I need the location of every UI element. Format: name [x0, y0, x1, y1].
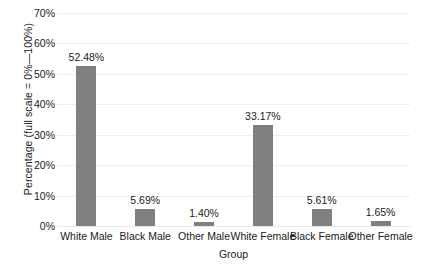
bar[interactable] [312, 209, 332, 226]
bar-value-label: 5.69% [130, 194, 160, 206]
bar[interactable] [371, 221, 391, 226]
y-axis-tick-labels: 70%60%50%40%30%20%10%0% [0, 0, 55, 271]
bar-group: 5.69%Black Male [116, 13, 175, 226]
gridline [57, 226, 410, 227]
y-axis-tick-label: 40% [3, 98, 55, 110]
bar[interactable] [194, 222, 214, 226]
y-axis-tick-label: 60% [3, 37, 55, 49]
bar-value-label: 5.61% [307, 194, 337, 206]
x-axis-category-label: Black Male [120, 230, 171, 242]
bar-group: 52.48%White Male [57, 13, 116, 226]
y-axis-tick-label: 20% [3, 159, 55, 171]
x-axis-category-label: White Male [60, 230, 113, 242]
bar-value-label: 1.40% [189, 207, 219, 219]
bar[interactable] [76, 66, 96, 226]
x-axis-category-label: White Female [231, 230, 296, 242]
bar-value-label: 1.65% [366, 206, 396, 218]
bar-group: 33.17%White Female [234, 13, 293, 226]
bar-value-label: 52.48% [69, 51, 105, 63]
bar[interactable] [253, 125, 273, 226]
bar[interactable] [135, 209, 155, 226]
y-axis-tick-label: 0% [3, 220, 55, 232]
y-axis-tick-label: 50% [3, 68, 55, 80]
bar-group: 1.40%Other Male [175, 13, 234, 226]
x-axis-category-label: Black Female [290, 230, 354, 242]
x-axis-category-label: Other Female [348, 230, 412, 242]
bar-chart: Percentage (full scale = 0%—100%) 70%60%… [0, 0, 423, 271]
x-axis-category-label: Other Male [178, 230, 230, 242]
bar-value-label: 33.17% [245, 110, 281, 122]
x-axis-title: Group [57, 248, 410, 260]
bar-group: 5.61%Black Female [292, 13, 351, 226]
plot-area: 52.48%White Male5.69%Black Male1.40%Othe… [57, 13, 410, 226]
bar-group: 1.65%Other Female [351, 13, 410, 226]
y-axis-tick-label: 30% [3, 129, 55, 141]
y-axis-tick-label: 70% [3, 7, 55, 19]
y-axis-tick-label: 10% [3, 190, 55, 202]
